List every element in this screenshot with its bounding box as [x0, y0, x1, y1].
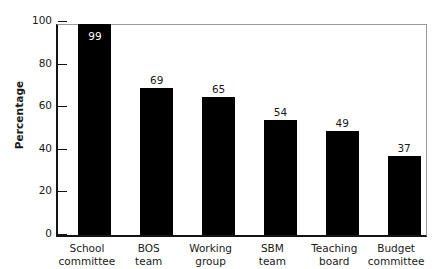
x-axis-category-label-line: team [114, 255, 184, 268]
bar [140, 88, 173, 235]
x-axis-category-label-line: Working [176, 242, 246, 255]
x-axis-category-label-line: School [52, 242, 122, 255]
bar-value-label: 49 [326, 117, 359, 129]
y-axis-tick: 60 [58, 106, 67, 107]
y-axis-tick-label: 40 [39, 142, 52, 154]
bar [326, 131, 359, 235]
x-axis-category-label: Teachingboard [299, 242, 369, 267]
bar-chart: Percentage 100806040200 996965544937 Sch… [0, 0, 442, 269]
bar [264, 120, 297, 235]
y-axis-tick: 20 [58, 191, 67, 192]
x-axis-category-label: Budgetcommittee [361, 242, 431, 267]
y-axis-tick-label: 100 [32, 14, 52, 26]
x-axis-category-label-line: board [299, 255, 369, 268]
x-axis-category-label: SBMteam [238, 242, 308, 267]
bar-group: 69 [140, 22, 173, 235]
bar [202, 97, 235, 235]
bar-group: 65 [202, 22, 235, 235]
bar-value-label: 65 [202, 83, 235, 95]
bar-group: 99 [78, 22, 111, 235]
x-axis-category-label-line: committee [361, 255, 431, 268]
y-axis-tick-label: 80 [39, 57, 52, 69]
plot-area: 100806040200 996965544937 [56, 24, 427, 237]
y-axis-tick: 100 [58, 21, 67, 22]
x-axis-category-label-line: BOS [114, 242, 184, 255]
bar-value-label: 54 [264, 106, 297, 118]
y-axis-tick: 0 [58, 234, 67, 235]
x-axis-category-label-line: Budget [361, 242, 431, 255]
bar-value-label: 69 [140, 74, 173, 86]
x-axis-category-label-line: SBM [238, 242, 308, 255]
x-axis-category-label-line: group [176, 255, 246, 268]
bar-group: 49 [326, 22, 359, 235]
bar-group: 54 [264, 22, 297, 235]
y-axis-tick: 80 [58, 64, 67, 65]
bar-value-label: 37 [388, 142, 421, 154]
x-axis-category-label: Schoolcommittee [52, 242, 122, 267]
x-axis-category-label: BOSteam [114, 242, 184, 267]
bar-value-label: 99 [78, 30, 111, 42]
y-axis-tick-label: 60 [39, 99, 52, 111]
bar [388, 156, 421, 235]
y-axis-tick: 40 [58, 149, 67, 150]
y-axis-tick-label: 0 [45, 227, 52, 239]
x-axis-category-label-line: team [238, 255, 308, 268]
bar-group: 37 [388, 22, 421, 235]
bar [78, 24, 111, 235]
y-axis-tick-label: 20 [39, 184, 52, 196]
x-axis-category-label: Workinggroup [176, 242, 246, 267]
x-axis-category-label-line: committee [52, 255, 122, 268]
y-axis-title: Percentage [10, 60, 28, 170]
x-axis-category-label-line: Teaching [299, 242, 369, 255]
